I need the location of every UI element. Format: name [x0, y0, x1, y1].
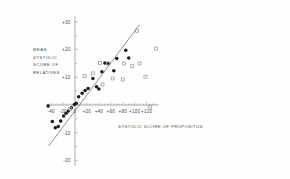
- y-axis-tick-label: -10: [63, 131, 70, 136]
- y-axis-label-line-1: MEAN: [33, 46, 73, 54]
- y-axis-label-line-3: SCORE OF: [33, 61, 73, 69]
- x-axis-tick-label: +40: [95, 109, 104, 114]
- data-point-filled: [46, 104, 50, 108]
- x-axis-tick-label: +20: [83, 109, 92, 114]
- x-axis-tick-label: -40: [47, 109, 54, 114]
- data-point-filled: [86, 87, 90, 91]
- data-point-open: [122, 62, 125, 65]
- data-point-filled: [97, 87, 101, 91]
- data-point-open: [144, 75, 147, 78]
- data-point-open: [99, 61, 102, 64]
- data-point-filled: [77, 95, 81, 99]
- data-point-open: [101, 83, 104, 86]
- data-point-open: [131, 65, 134, 68]
- data-point-open: [111, 77, 114, 80]
- data-point-filled: [124, 48, 128, 52]
- data-point-filled: [57, 125, 61, 129]
- data-point-filled: [100, 70, 104, 74]
- data-point-open: [83, 75, 86, 78]
- x-axis-tick-label: +80: [119, 109, 128, 114]
- y-axis-tick-label: -20: [63, 158, 70, 163]
- x-axis-tick-label: +100: [129, 109, 140, 114]
- data-point-open: [91, 72, 94, 75]
- data-point-open: [121, 78, 124, 81]
- data-point-filled: [80, 92, 84, 96]
- data-point-open: [149, 105, 152, 108]
- y-axis-label-line-4: RELATIVES: [33, 69, 73, 77]
- data-point-open: [155, 47, 158, 50]
- data-point-filled: [51, 120, 55, 124]
- y-axis-label: MEAN SYSTOLIC SCORE OF RELATIVES: [33, 46, 73, 76]
- x-axis-tick-label: +120: [141, 109, 152, 114]
- x-axis-tick-label: +60: [107, 109, 116, 114]
- scatter-plot-figure: -40-200+20+40+60+80+100+120-20-10+10+20+…: [0, 0, 290, 179]
- plot-canvas: -40-200+20+40+60+80+100+120-20-10+10+20+…: [0, 0, 290, 179]
- y-axis-label-line-2: SYSTOLIC: [33, 54, 73, 62]
- data-point-filled: [83, 89, 87, 93]
- data-point-filled: [74, 102, 78, 106]
- data-point-filled: [91, 77, 95, 81]
- data-point-filled: [54, 126, 58, 129]
- y-axis-tick-label: +30: [62, 20, 71, 25]
- x-axis-label: SYSTOLIC SCORE OF PROPOSITUS: [118, 124, 203, 129]
- data-point-filled: [115, 57, 119, 61]
- data-point-filled: [127, 56, 131, 60]
- data-point-filled: [59, 119, 63, 123]
- data-point-filled: [112, 69, 116, 73]
- data-point-open: [138, 62, 141, 65]
- data-point-filled: [62, 114, 65, 118]
